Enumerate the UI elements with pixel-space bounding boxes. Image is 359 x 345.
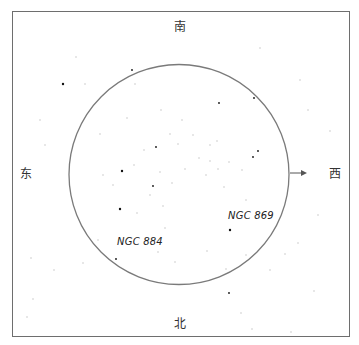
faint-star — [39, 119, 40, 120]
faint-star — [134, 83, 135, 84]
faint-star — [99, 133, 100, 134]
faint-star — [112, 184, 113, 185]
faint-star — [198, 157, 199, 158]
faint-star — [126, 117, 127, 118]
faint-star — [297, 242, 298, 243]
label-ngc-869: NGC 869 — [228, 210, 274, 221]
faint-star — [284, 253, 285, 254]
field-of-view-circle — [69, 65, 289, 285]
faint-star — [26, 316, 27, 317]
faint-star — [174, 261, 175, 262]
faint-star — [259, 47, 260, 48]
bright-star — [131, 69, 133, 71]
faint-star — [184, 168, 185, 169]
label-ngc-884: NGC 884 — [117, 236, 163, 247]
bright-star — [257, 150, 259, 152]
bright-star — [218, 102, 220, 104]
bright-star — [115, 258, 117, 260]
direction-east: 东 — [20, 168, 32, 180]
faint-star — [97, 239, 98, 240]
bright-star — [252, 156, 254, 158]
faint-star — [223, 186, 224, 187]
faint-star — [82, 262, 83, 263]
faint-star — [206, 250, 207, 251]
bright-star — [155, 146, 157, 148]
faint-star — [192, 134, 193, 135]
direction-south: 南 — [174, 21, 186, 33]
faint-star — [225, 268, 226, 269]
faint-star — [241, 169, 242, 170]
faint-star — [313, 290, 314, 291]
faint-star — [133, 164, 134, 165]
faint-star — [159, 171, 160, 172]
faint-star — [299, 79, 300, 80]
faint-star — [53, 269, 54, 270]
direction-west: 西 — [329, 168, 341, 180]
faint-star — [216, 140, 217, 141]
faint-star — [162, 205, 163, 206]
bright-star — [152, 185, 154, 187]
faint-star — [32, 298, 33, 299]
faint-star — [269, 269, 270, 270]
faint-stars — [26, 47, 330, 332]
faint-star — [205, 174, 206, 175]
bright-star — [253, 97, 255, 99]
faint-star — [84, 83, 85, 84]
faint-star — [75, 56, 76, 57]
faint-star — [102, 174, 103, 175]
faint-star — [240, 312, 241, 313]
faint-star — [171, 182, 172, 183]
bright-star — [121, 170, 123, 172]
faint-star — [245, 254, 246, 255]
bright-star — [228, 292, 230, 294]
faint-star — [30, 257, 31, 258]
faint-star — [177, 143, 178, 144]
direction-north: 北 — [174, 318, 186, 330]
faint-star — [317, 214, 318, 215]
bright-star — [229, 229, 231, 231]
faint-star — [136, 212, 137, 213]
faint-star — [209, 160, 210, 161]
faint-star — [143, 149, 144, 150]
faint-star — [290, 331, 291, 332]
faint-star — [307, 109, 308, 110]
faint-star — [160, 109, 161, 110]
faint-star — [329, 130, 330, 131]
bright-stars — [62, 69, 259, 294]
faint-star — [245, 199, 246, 200]
faint-star — [164, 227, 165, 228]
bright-star — [62, 83, 64, 85]
faint-star — [169, 133, 170, 134]
faint-star — [217, 168, 218, 169]
faint-star — [251, 328, 252, 329]
faint-star — [44, 144, 45, 145]
faint-star — [181, 119, 182, 120]
faint-star — [209, 144, 210, 145]
faint-star — [157, 251, 158, 252]
west-arrow-icon — [290, 170, 307, 176]
bright-star — [119, 208, 121, 210]
faint-star — [149, 194, 150, 195]
star-field — [0, 0, 359, 345]
faint-star — [228, 161, 229, 162]
